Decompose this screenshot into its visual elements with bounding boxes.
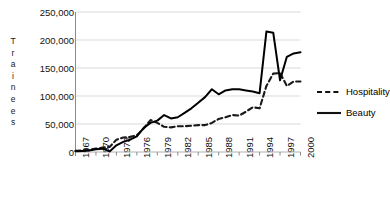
- legend-swatch-solid: [316, 108, 342, 118]
- series-line-beauty: [76, 32, 301, 152]
- series-line-hospitality: [76, 73, 301, 151]
- legend-item[interactable]: Beauty: [316, 107, 376, 118]
- legend-label: Beauty: [346, 107, 376, 118]
- legend-item[interactable]: Hospitality: [316, 86, 390, 97]
- legend-label: Hospitality: [346, 86, 390, 97]
- legend-swatch-dashed: [316, 87, 342, 97]
